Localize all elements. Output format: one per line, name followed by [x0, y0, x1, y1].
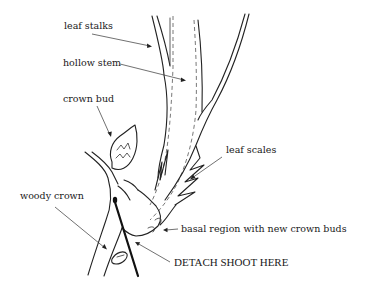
label-woody-crown: woody crown	[20, 190, 84, 201]
arrowhead-leaf-stalks	[147, 44, 152, 49]
leader-detach	[137, 243, 170, 262]
woody-crown-drawing	[85, 152, 161, 276]
leader-basal-region	[166, 229, 178, 230]
label-leaf-scales-group: leaf scales	[190, 144, 276, 180]
label-leaf-scales: leaf scales	[226, 144, 276, 155]
arrowhead-hollow-stem	[181, 78, 186, 83]
label-crown-bud-group: crown bud	[63, 93, 114, 137]
label-basal-region-group: basal region with new crown buds	[163, 223, 347, 234]
label-woody-crown-group: woody crown	[20, 190, 107, 250]
leader-hollow-stem	[120, 64, 184, 80]
leader-woody-crown	[55, 207, 105, 248]
leaf-scales-drawing	[155, 146, 204, 225]
cut-node-dot	[113, 197, 117, 203]
crown-bud-drawing	[110, 125, 137, 170]
arrowhead-basal-region	[163, 228, 168, 232]
shoot-diagram: leaf stalks hollow stem crown bud leaf s…	[0, 0, 365, 297]
leader-crown-bud	[97, 106, 110, 135]
label-basal-region: basal region with new crown buds	[181, 223, 347, 234]
leader-leaf-stalks	[92, 34, 150, 46]
leaf-stalks-drawing	[150, 14, 249, 220]
label-hollow-stem-group: hollow stem	[63, 57, 186, 82]
label-leaf-stalks: leaf stalks	[64, 20, 113, 31]
arrowhead-crown-bud	[108, 132, 112, 138]
label-detach-shoot-here: DETACH SHOOT HERE	[174, 256, 289, 268]
label-leaf-stalks-group: leaf stalks	[64, 20, 152, 48]
label-hollow-stem: hollow stem	[63, 57, 121, 68]
label-detach-group: DETACH SHOOT HERE	[135, 242, 289, 268]
arrowhead-woody-crown	[102, 244, 107, 250]
label-crown-bud: crown bud	[63, 93, 114, 104]
